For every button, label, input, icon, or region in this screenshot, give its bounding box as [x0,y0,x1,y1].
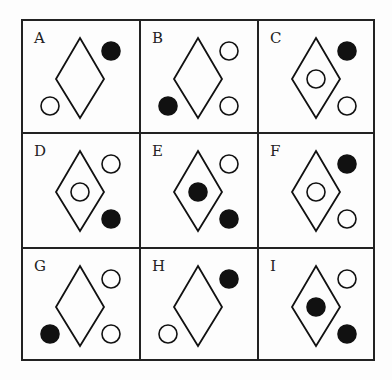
filled-circle-icon [220,210,238,228]
filled-circle-icon [338,325,356,343]
filled-circle-icon [102,42,120,60]
cell-d[interactable]: D [21,132,141,249]
cell-h[interactable]: H [139,247,259,361]
diamond-shape [174,38,222,118]
open-circle-icon [102,270,120,288]
cell-a[interactable]: A [21,19,141,134]
cell-e[interactable]: E [139,132,259,249]
filled-circle-icon [307,298,325,316]
open-circle-icon [307,70,325,88]
diamond-shape [292,151,340,231]
open-circle-icon [338,270,356,288]
cell-c[interactable]: C [257,19,375,134]
open-circle-icon [338,210,356,228]
filled-circle-icon [159,97,177,115]
open-circle-icon [220,42,238,60]
filled-circle-icon [189,183,207,201]
diamond-shape [56,151,104,231]
diamond-shape [292,38,340,118]
open-circle-icon [71,183,89,201]
open-circle-icon [41,97,59,115]
cell-f[interactable]: F [257,132,375,249]
open-circle-icon [102,325,120,343]
cell-b[interactable]: B [139,19,259,134]
cell-g[interactable]: G [21,247,141,361]
cell-i[interactable]: I [257,247,375,361]
open-circle-icon [307,183,325,201]
filled-circle-icon [338,155,356,173]
filled-circle-icon [41,325,59,343]
diamond-shape [56,266,104,346]
diamond-shape [56,38,104,118]
filled-circle-icon [102,210,120,228]
open-circle-icon [102,155,120,173]
open-circle-icon [220,97,238,115]
open-circle-icon [338,97,356,115]
filled-circle-icon [338,42,356,60]
filled-circle-icon [220,270,238,288]
open-circle-icon [220,155,238,173]
open-circle-icon [159,325,177,343]
puzzle-grid: ABCDEFGHI [21,19,375,361]
diamond-shape [174,266,222,346]
